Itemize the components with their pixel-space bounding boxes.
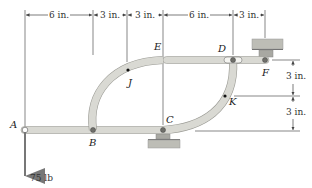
pin-c	[161, 128, 166, 133]
dim-k-c: 3 in.	[286, 107, 306, 117]
dim-b-j: 3 in.	[100, 10, 120, 20]
label-f: F	[261, 67, 270, 78]
label-e: E	[153, 41, 162, 52]
extension-lines	[25, 10, 300, 131]
label-b: B	[88, 137, 96, 148]
member-edf	[163, 57, 269, 64]
pin-a	[22, 127, 28, 133]
label-d: D	[217, 43, 226, 54]
support-c	[148, 134, 180, 148]
pin-d	[231, 58, 236, 63]
point-j	[126, 68, 129, 71]
load-label: 75 lb	[30, 173, 53, 183]
linkage-diagram: 6 in. 3 in. 3 in. 6 in. 3 in. 3 in. 3 in…	[0, 0, 312, 188]
dim-e-d: 6 in.	[189, 10, 209, 20]
label-j: J	[126, 77, 133, 88]
pin-b	[91, 128, 96, 133]
dim-a-b: 6 in.	[49, 10, 69, 20]
label-a: A	[9, 119, 17, 130]
label-c: C	[166, 114, 174, 125]
label-k: K	[228, 96, 237, 107]
support-f	[252, 39, 283, 57]
pin-f	[263, 58, 268, 63]
point-k	[223, 94, 226, 97]
dim-f-k: 3 in.	[286, 71, 306, 81]
dim-j-e: 3 in.	[135, 10, 155, 20]
dim-d-f: 3 in.	[239, 10, 259, 20]
